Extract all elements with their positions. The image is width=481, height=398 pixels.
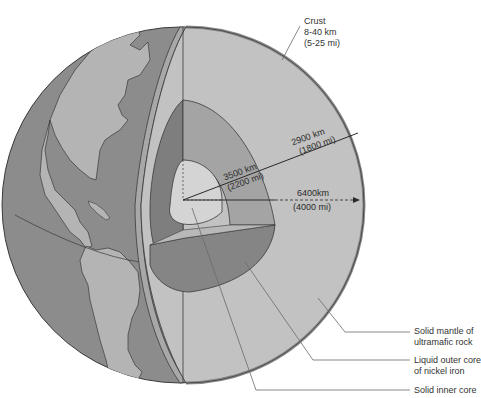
mantle-label: Solid mantle of ultramafic rock [414,326,474,348]
earth-radius-km: 6400km [293,188,331,199]
crust-title: Crust [304,16,340,27]
crust-leader [282,26,300,60]
earth-radius-measure: 6400km (4000 mi) [293,188,331,213]
earth-radius-mi: (4000 mi) [293,202,331,213]
crust-thickness-mi: (5-25 mi) [304,38,340,49]
crust-thickness-km: 8-40 km [304,27,340,38]
inner-core-label: Solid inner core [414,385,477,396]
crust-label: Crust 8-40 km (5-25 mi) [304,16,340,49]
outer-core-label: Liquid outer core of nickel iron [414,355,481,377]
